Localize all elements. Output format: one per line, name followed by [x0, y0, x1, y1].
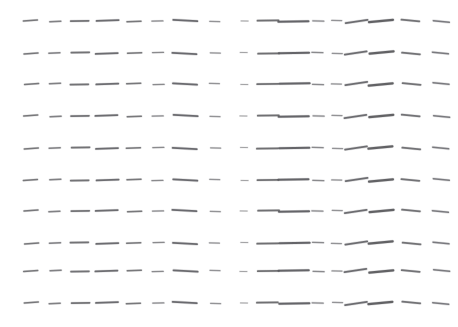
vector-glyph	[96, 53, 118, 54]
vector-glyph	[96, 84, 118, 85]
vector-glyph	[24, 302, 38, 303]
vector-glyph	[172, 210, 196, 211]
vector-glyph	[173, 83, 197, 84]
vector-glyph	[173, 243, 197, 244]
vector-glyph	[24, 148, 38, 149]
vector-glyph	[95, 115, 117, 116]
vector-glyph	[95, 271, 117, 272]
plot-background	[0, 0, 458, 327]
vector-glyph	[24, 271, 38, 272]
vector-glyph	[24, 115, 38, 116]
vector-glyph	[279, 303, 309, 304]
vector-glyph	[279, 53, 309, 54]
vector-glyph	[173, 179, 197, 180]
vector-glyph	[97, 20, 119, 21]
vector-glyph	[96, 210, 118, 211]
vector-glyph	[24, 210, 38, 211]
vector-glyph	[174, 115, 198, 116]
vector-glyph	[97, 180, 119, 181]
vector-glyph	[25, 84, 39, 85]
vector-glyph	[279, 148, 309, 149]
vector-glyph	[278, 21, 308, 22]
vector-glyph	[173, 20, 197, 21]
vector-glyph	[96, 302, 118, 303]
vector-glyph	[23, 20, 37, 21]
vector-glyph	[24, 53, 38, 54]
vector-field-canvas	[0, 0, 458, 327]
vector-glyph	[173, 148, 197, 149]
vector-glyph	[172, 53, 196, 54]
vector-glyph	[279, 211, 309, 212]
vector-glyph	[25, 243, 39, 244]
vector-glyph	[278, 179, 308, 180]
vector-field-plot	[0, 0, 458, 327]
vector-glyph	[96, 243, 118, 244]
vector-glyph	[23, 180, 37, 181]
vector-glyph	[279, 270, 309, 271]
vector-glyph	[173, 302, 197, 303]
vector-glyph	[280, 83, 310, 84]
vector-glyph	[280, 243, 310, 244]
vector-glyph	[174, 270, 198, 271]
vector-glyph	[279, 116, 309, 117]
vector-glyph	[96, 148, 118, 149]
